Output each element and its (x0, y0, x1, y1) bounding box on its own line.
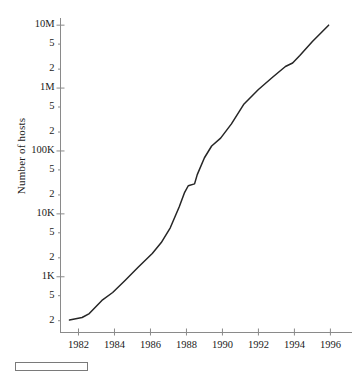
x-tick-label: 1982 (58, 339, 98, 350)
chart-axes (57, 18, 353, 336)
y-axis-title: Number of hosts (15, 91, 27, 221)
x-tick-label: 1986 (130, 339, 170, 350)
x-tick-label: 1988 (166, 339, 206, 350)
y-tick-label: 100K (31, 144, 54, 155)
y-tick-label: 2 (49, 188, 54, 199)
x-tick-label: 1990 (202, 339, 242, 350)
x-tick-label: 1996 (310, 339, 350, 350)
series-line (70, 25, 329, 320)
y-tick-label: 10K (36, 207, 54, 218)
y-tick-label: 1M (40, 81, 55, 92)
y-tick-label: 2 (49, 251, 54, 262)
y-tick-label: 5 (49, 163, 54, 174)
x-tick-label: 1992 (238, 339, 278, 350)
scale-bar (15, 362, 88, 371)
y-tick-label: 2 (49, 314, 54, 325)
y-tick-label: 5 (49, 100, 54, 111)
y-tick-label: 5 (49, 289, 54, 300)
y-tick-label: 1K (42, 270, 55, 281)
y-tick-label: 2 (49, 62, 54, 73)
y-tick-label: 2 (49, 125, 54, 136)
chart-figure: Number of hosts 251K2510K25100K251M2510M… (0, 0, 354, 374)
y-tick-label: 10M (35, 18, 55, 29)
x-tick-label: 1984 (94, 339, 134, 350)
y-tick-label: 5 (49, 37, 54, 48)
y-tick-label: 5 (49, 226, 54, 237)
chart-series-group (70, 25, 329, 320)
x-tick-label: 1994 (274, 339, 314, 350)
